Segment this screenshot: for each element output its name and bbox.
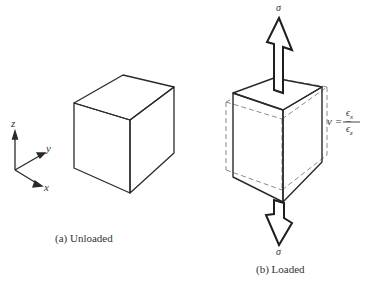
equation-denominator: ϵz — [346, 123, 353, 137]
equation-numerator: ϵx — [346, 107, 353, 121]
z-axis-label: z — [11, 117, 15, 129]
x-axis-label: x — [44, 181, 49, 193]
y-axis-label: y — [46, 142, 51, 154]
y-axis — [15, 155, 41, 170]
sigma-top-label: σ — [276, 2, 281, 13]
cube-left-face — [74, 103, 130, 193]
x-arrowhead-icon — [33, 181, 42, 187]
tension-arrow-down-icon — [266, 200, 292, 245]
tension-arrow-up-icon — [267, 18, 292, 93]
axes-triad — [13, 131, 46, 187]
denominator-subscript: z — [350, 129, 353, 137]
cube-right-face — [130, 87, 174, 193]
unloaded-cube — [74, 75, 174, 193]
numerator-subscript: x — [350, 113, 353, 121]
loaded-left-face — [233, 93, 283, 202]
z-arrowhead-icon — [13, 131, 18, 139]
caption-unloaded: (a) Unloaded — [55, 232, 113, 244]
caption-loaded: (b) Loaded — [256, 263, 305, 275]
sigma-bottom-label: σ — [276, 246, 281, 257]
loaded-box — [233, 78, 322, 202]
